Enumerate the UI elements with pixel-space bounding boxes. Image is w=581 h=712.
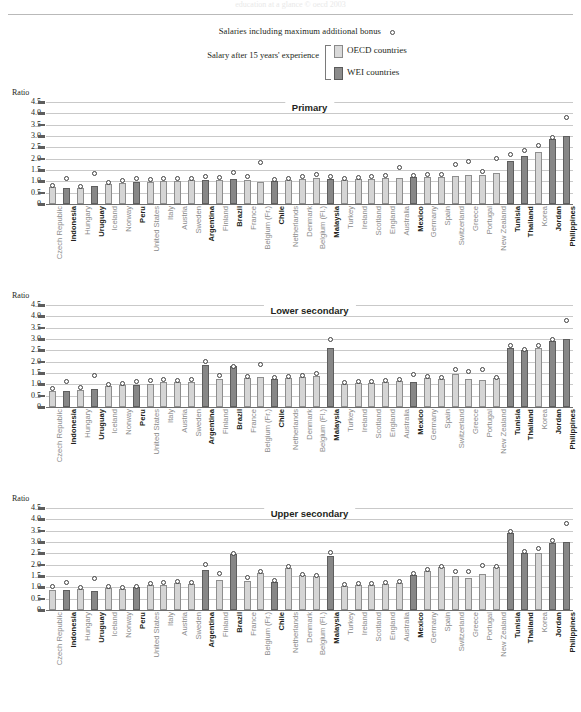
x-axis-tick-label: Australia — [403, 409, 411, 439]
x-axis-tick-label: Australia — [403, 206, 411, 236]
x-axis-tick-label: Finland — [222, 206, 230, 231]
y-axis-tick-mark — [38, 349, 45, 352]
y-axis-tick-mark — [38, 180, 45, 183]
bar — [230, 179, 237, 204]
bonus-marker-icon — [328, 337, 333, 342]
x-axis-tick-label: Brazil — [236, 612, 244, 633]
bar — [299, 179, 306, 204]
x-axis-tick-label: Netherlands — [292, 409, 300, 450]
bonus-marker-icon — [453, 367, 458, 372]
bar — [299, 575, 306, 610]
bar — [216, 580, 223, 610]
x-axis-tick-label: England — [389, 612, 397, 640]
y-axis-tick-mark — [38, 203, 45, 206]
bar — [521, 350, 528, 407]
x-axis-tick-label: Malaysia — [333, 612, 341, 644]
x-axis-tick-label: Scotland — [375, 612, 383, 642]
x-axis-tick-label: Norway — [125, 206, 133, 232]
gridline — [46, 136, 573, 137]
bar — [465, 379, 472, 407]
page-ghost-header: education at a glance © oecd 2003 — [0, 0, 581, 12]
bonus-marker-icon — [466, 569, 471, 574]
y-axis-tick-mark — [38, 609, 45, 612]
x-axis-tick-label: Thailand — [527, 409, 535, 440]
bonus-marker-icon — [134, 584, 139, 589]
bar — [355, 383, 362, 407]
bar — [188, 584, 195, 610]
y-axis-tick-mark — [38, 530, 45, 533]
y-axis-tick-mark — [38, 518, 45, 521]
bonus-marker-icon — [106, 180, 111, 185]
x-axis-tick-label: New Zealand — [500, 409, 508, 454]
x-axis-tick-label: Switzerland — [458, 409, 466, 448]
y-axis-tick-mark — [38, 327, 45, 330]
bonus-marker-icon — [453, 162, 458, 167]
legend-bracket — [325, 45, 331, 80]
bonus-marker-icon — [356, 379, 361, 384]
bar — [257, 377, 264, 407]
x-axis-tick-label: Iceland — [111, 409, 119, 434]
y-axis-tick-mark — [38, 383, 45, 386]
gridline — [46, 542, 573, 543]
x-axis-tick-label: Italy — [167, 409, 175, 423]
y-axis-tick-mark — [38, 406, 45, 409]
bonus-marker-icon — [258, 160, 263, 165]
bonus-marker-icon — [148, 581, 153, 586]
bar — [147, 585, 154, 610]
bonus-marker-icon — [356, 581, 361, 586]
bonus-marker-icon — [522, 148, 527, 153]
bar — [105, 386, 112, 407]
bar — [479, 380, 486, 407]
x-axis-tick-label: Belgium (Fl.) — [319, 206, 327, 249]
x-axis-tick-label: Belgium (Fr.) — [264, 206, 272, 249]
x-axis-tick-label: Brazil — [236, 409, 244, 430]
bar — [521, 156, 528, 204]
y-axis-title: Ratio — [12, 494, 29, 503]
header-divider — [8, 14, 573, 15]
x-axis-tick-label: Italy — [167, 206, 175, 220]
x-axis-tick-label: Netherlands — [292, 612, 300, 653]
x-axis-tick-label: Austria — [181, 206, 189, 230]
bonus-marker-icon — [494, 156, 499, 161]
bonus-marker-icon — [148, 177, 153, 182]
y-axis-title: Ratio — [12, 88, 29, 97]
x-axis-tick-label: Mexico — [417, 206, 425, 232]
x-axis-tick-label: Hungary — [84, 409, 92, 438]
bonus-marker-icon — [64, 580, 69, 585]
y-axis-tick-mark — [38, 158, 45, 161]
x-axis-tick-label: Uruguay — [98, 409, 106, 440]
bar — [271, 379, 278, 407]
bar — [160, 585, 167, 610]
bar — [216, 379, 223, 407]
x-axis-tick-label: Spain — [444, 612, 452, 631]
x-axis-tick-label: Sweden — [195, 612, 203, 639]
x-axis-tick-label: Jordan — [555, 612, 563, 637]
x-axis-tick-label: Finland — [222, 612, 230, 637]
bar — [216, 180, 223, 204]
bonus-marker-icon — [439, 375, 444, 380]
x-axis-tick-label: Indonesia — [70, 409, 78, 444]
x-axis-tick-label: Norway — [125, 612, 133, 638]
bar — [271, 582, 278, 610]
x-axis-tick-label: England — [389, 409, 397, 437]
x-axis-tick-label: Tunisia — [514, 206, 522, 232]
x-axis-tick-label: Argentina — [208, 206, 216, 241]
legend-label-wei: WEI countries — [347, 67, 399, 77]
bonus-marker-icon — [397, 377, 402, 382]
x-axis-tick-label: Scotland — [375, 206, 383, 236]
plot-area: 4.54.03.53.02.52.01.51.00.50Lower second… — [46, 305, 573, 407]
bar — [410, 382, 417, 407]
bonus-marker-icon — [342, 380, 347, 385]
y-axis-tick-mark — [38, 304, 45, 307]
bar — [410, 575, 417, 610]
bonus-marker-icon — [245, 374, 250, 379]
x-axis-tick-label: Philippines — [569, 409, 577, 450]
y-axis-tick-mark — [38, 586, 45, 589]
x-axis-tick-label: Mexico — [417, 612, 425, 638]
bonus-marker-icon — [300, 572, 305, 577]
x-axis-tick-label: Malaysia — [333, 206, 341, 238]
bonus-marker-icon — [300, 373, 305, 378]
x-axis-tick-label: Sweden — [195, 409, 203, 436]
chart-legend: Salaries including maximum additional bo… — [0, 26, 581, 88]
bar — [563, 542, 570, 610]
